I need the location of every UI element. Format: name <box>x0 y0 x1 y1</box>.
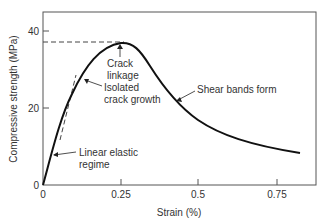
x-tick-label: 0.75 <box>267 189 287 200</box>
x-axis-label: Strain (%) <box>157 207 201 218</box>
y-tick-label: 40 <box>28 26 40 37</box>
x-tick-label: 0.25 <box>111 189 131 200</box>
annotation-isolated-crack: crack growth <box>104 94 161 105</box>
annotation-shear-bands: Shear bands form <box>197 84 277 95</box>
stress-strain-chart: 40 20 0 Compressive strength (MPa) 0 0.2… <box>0 0 327 224</box>
x-tick-label: 0.5 <box>191 189 205 200</box>
annotation-linear-elastic: Linear elastic <box>79 147 138 158</box>
tangent-reference-line <box>60 75 76 140</box>
annotation-isolated-crack: Isolated <box>104 82 139 93</box>
y-tick-label: 20 <box>28 103 40 114</box>
annotation-linear-elastic: regime <box>79 159 110 170</box>
chart-svg: 40 20 0 Compressive strength (MPa) 0 0.2… <box>0 0 327 224</box>
annotation-crack-linkage: Crack <box>107 58 134 69</box>
y-tick-label: 0 <box>33 180 39 191</box>
y-axis-label: Compressive strength (MPa) <box>8 35 19 162</box>
x-tick-label: 0 <box>40 189 46 200</box>
annotation-crack-linkage: linkage <box>107 70 139 81</box>
annotations: Linear elastic regime Isolated crack gro… <box>53 44 277 170</box>
